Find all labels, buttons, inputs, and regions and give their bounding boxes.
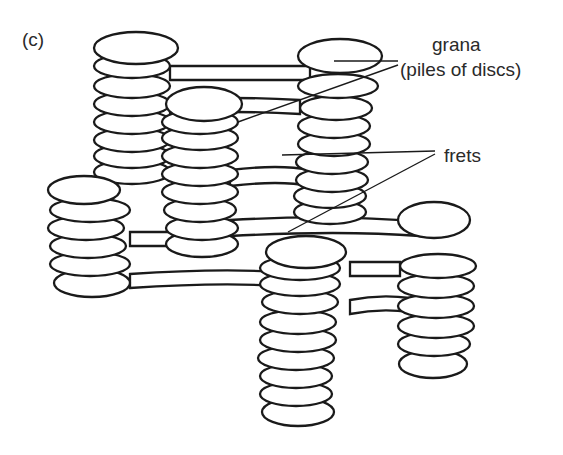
front-stack — [258, 236, 346, 426]
grana-label: grana — [432, 35, 481, 54]
grana-description-label: (piles of discs) — [400, 60, 521, 79]
panel-label: (c) — [22, 30, 44, 49]
left-stack — [48, 176, 130, 297]
middle-stack — [162, 87, 242, 257]
back-right-stack — [294, 39, 382, 224]
right-stack — [398, 202, 476, 378]
frets-label: frets — [444, 146, 481, 165]
